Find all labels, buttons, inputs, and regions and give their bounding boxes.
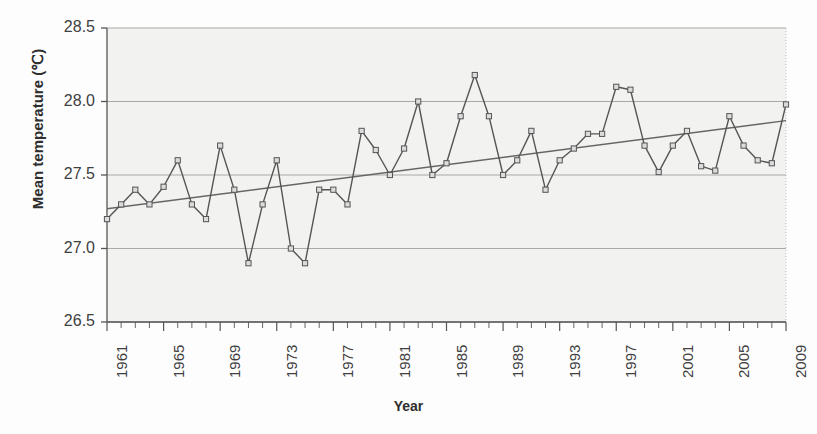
x-tick-label: 2001 [679,345,696,378]
y-tick-label: 27.5 [33,165,95,183]
chart-figure: Mean temperature (℃) Year Temperature ri… [0,0,817,434]
x-tick-label: 1969 [226,345,243,378]
x-tick-label: 1985 [453,345,470,378]
x-tick-label: 2005 [735,345,752,378]
x-tick-label: 1981 [396,345,413,378]
y-tick-label: 27.0 [33,239,95,257]
x-tick-label: 1997 [622,345,639,378]
y-tick-label: 28.0 [33,92,95,110]
x-tick-label: 1977 [339,345,356,378]
x-tick-label: 1993 [566,345,583,378]
y-tick-label: 28.5 [33,18,95,36]
x-tick-label: 1965 [170,345,187,378]
x-tick-label: 1973 [283,345,300,378]
y-tick-label: 26.5 [33,312,95,330]
x-tick-label: 1989 [509,345,526,378]
x-tick-label: 2009 [792,345,809,378]
x-tick-label: 1961 [113,345,130,378]
